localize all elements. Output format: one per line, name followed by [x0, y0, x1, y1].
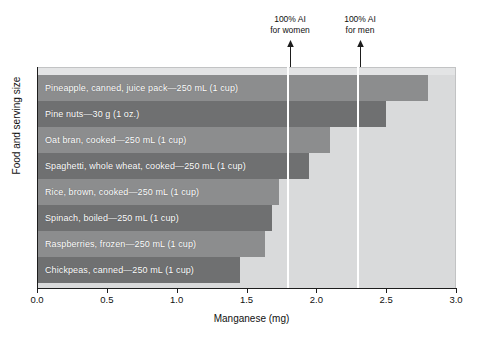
- bar-label: Chickpeas, canned—250 mL (1 cup): [45, 265, 194, 275]
- reference-line-men: [357, 67, 359, 288]
- x-tick: [247, 288, 248, 293]
- x-tick: [456, 288, 457, 293]
- annotation-men-ai: 100% AI for men: [313, 14, 407, 35]
- bar-row: Raspberries, frozen—250 mL (1 cup): [37, 231, 456, 257]
- arrow-down-men-icon: [356, 40, 365, 68]
- bar-row: Chickpeas, canned—250 mL (1 cup): [37, 257, 456, 283]
- bar-label: Spinach, boiled—250 mL (1 cup): [45, 213, 179, 223]
- x-tick: [107, 288, 108, 293]
- bar-row: Rice, brown, cooked—250 mL (1 cup): [37, 179, 456, 205]
- x-tick-label: 0.0: [30, 294, 43, 305]
- bar-row: Spaghetti, whole wheat, cooked—250 mL (1…: [37, 153, 456, 179]
- x-axis-title: Manganese (mg): [0, 313, 481, 324]
- annotation-men-line2: for men: [313, 25, 407, 36]
- bar-label: Raspberries, frozen—250 mL (1 cup): [45, 239, 196, 249]
- x-axis-title-text: Manganese (mg): [214, 313, 290, 324]
- x-tick: [177, 288, 178, 293]
- x-tick-label: 2.5: [380, 294, 393, 305]
- annotation-men-line1: 100% AI: [313, 14, 407, 25]
- bar-row: Pineapple, canned, juice pack—250 mL (1 …: [37, 75, 456, 101]
- manganese-bar-chart-figure: 100% AI for women 100% AI for men Pineap…: [0, 0, 481, 344]
- bar-row: Oat bran, cooked—250 mL (1 cup): [37, 127, 456, 153]
- bar-row: Pine nuts—30 g (1 oz.): [37, 101, 456, 127]
- bar-label: Pine nuts—30 g (1 oz.): [45, 109, 139, 119]
- bars-layer: Pineapple, canned, juice pack—250 mL (1 …: [37, 67, 456, 288]
- x-tick-label: 1.0: [170, 294, 183, 305]
- bar-label: Pineapple, canned, juice pack—250 mL (1 …: [45, 83, 238, 93]
- y-axis-line: [37, 67, 38, 289]
- bar-label: Oat bran, cooked—250 mL (1 cup): [45, 135, 186, 145]
- bar-label: Spaghetti, whole wheat, cooked—250 mL (1…: [45, 161, 246, 171]
- x-tick-label: 1.5: [240, 294, 253, 305]
- bar-row: Spinach, boiled—250 mL (1 cup): [37, 205, 456, 231]
- reference-line-women: [287, 67, 289, 288]
- x-tick-label: 2.0: [310, 294, 323, 305]
- arrow-down-women-icon: [286, 40, 295, 68]
- x-tick-label: 3.0: [449, 294, 462, 305]
- x-tick: [316, 288, 317, 293]
- x-tick: [37, 288, 38, 293]
- x-tick-label: 0.5: [100, 294, 113, 305]
- bar-label: Rice, brown, cooked—250 mL (1 cup): [45, 187, 199, 197]
- y-axis-title: Food and serving size: [11, 36, 22, 216]
- x-tick: [386, 288, 387, 293]
